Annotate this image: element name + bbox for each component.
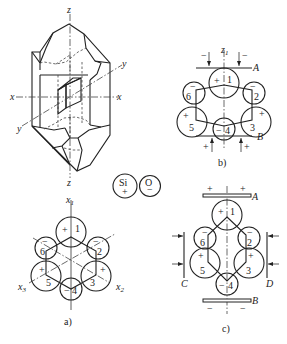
panel-b-atom-6-num: 6 xyxy=(186,91,191,102)
panel-a-atom-4-charge: − xyxy=(64,285,70,296)
panel-a-axis-x1: x1 xyxy=(65,194,74,207)
panel-a-axis-x2: x2 xyxy=(115,281,124,294)
panel-c-top-sign-left: + xyxy=(207,183,213,194)
crystal-axis-y-upper: y xyxy=(121,58,127,69)
panel-a: x1 x2 x3 + 1 − 2 + 3 − 4 + 5 − 6 a) xyxy=(17,194,124,328)
legend-o-charge: − xyxy=(147,184,153,195)
crystal-axis-x-left: x xyxy=(9,91,15,102)
panel-b-atom-3-num: 3 xyxy=(250,122,255,133)
panel-a-atom-5-charge: + xyxy=(39,264,45,275)
panel-c-caption: c) xyxy=(222,323,230,335)
panel-b-atom-5-num: 5 xyxy=(189,122,194,133)
panel-a-axis-x3: x3 xyxy=(17,281,26,294)
panel-c-plate-a: A xyxy=(251,191,259,202)
panel-b-atom-1-num: 1 xyxy=(227,74,232,85)
crystal-axis-z-top: z xyxy=(66,4,71,15)
panel-b: z1 A B − − + + + 1 − 2 + 3 − 4 + 5 − xyxy=(177,44,271,169)
panel-b-top-sign-left: − xyxy=(201,50,207,61)
crystal-axis-z-bottom: z xyxy=(66,177,71,188)
panel-b-atom-1-charge: + xyxy=(214,75,220,86)
panel-c-atom-1-charge: + xyxy=(218,206,224,217)
panel-a-atom-3-num: 3 xyxy=(90,277,95,288)
panel-c-atom-3-charge: + xyxy=(248,250,254,261)
panel-c-plate-b: B xyxy=(252,295,258,306)
panel-a-atom-6-num: 6 xyxy=(40,246,45,257)
panel-b-bottom-sign-left: + xyxy=(203,141,209,152)
legend-si-charge: + xyxy=(122,186,128,197)
panel-c-atom-5-num: 5 xyxy=(200,265,205,276)
panel-b-axis-z1: z1 xyxy=(220,44,228,57)
panel-a-atom-1-charge: + xyxy=(62,224,68,235)
panel-b-atom-2-num: 2 xyxy=(254,91,259,102)
panel-c-atom-5-charge: + xyxy=(198,250,204,261)
crystal-axis-y-lower: y xyxy=(16,123,22,134)
panel-b-atom-3-charge: + xyxy=(259,108,265,119)
panel-c-atom-1-num: 1 xyxy=(230,206,235,217)
panel-c-atom-3-num: 3 xyxy=(246,265,251,276)
panel-c: A B + + − − C D + 1 − 2 + 3 − 4 + 5 xyxy=(172,183,279,335)
quartz-crystal-drawing: z z x x y y xyxy=(9,4,127,188)
panel-c-atom-2-num: 2 xyxy=(247,237,252,248)
panel-a-atom-4-num: 4 xyxy=(72,285,77,296)
panel-b-plate-a: A xyxy=(252,62,260,73)
panel-c-bottom-sign-left: − xyxy=(207,303,213,314)
panel-b-atom-4-num: 4 xyxy=(225,125,230,136)
panel-b-top-sign-right: − xyxy=(242,50,248,61)
panel-c-plate-c: C xyxy=(181,278,188,289)
panel-b-bottom-sign-right: + xyxy=(244,141,250,152)
panel-a-atom-2-num: 2 xyxy=(97,246,102,257)
panel-c-plate-d: D xyxy=(265,278,274,289)
quartz-piezo-diagram: z z x x y y Si + O − x1 x2 x3 + 1 − xyxy=(0,0,287,344)
atom-legend: Si + O − xyxy=(113,174,161,198)
panel-b-atom-5-charge: + xyxy=(183,110,189,121)
panel-c-atom-6-num: 6 xyxy=(200,237,205,248)
panel-a-atom-5-num: 5 xyxy=(46,277,51,288)
panel-c-atom-4-num: 4 xyxy=(228,280,233,291)
panel-b-atom-4-charge: − xyxy=(216,125,222,136)
panel-c-top-sign-right: + xyxy=(240,183,246,194)
panel-c-atom-4-charge: − xyxy=(219,280,225,291)
panel-b-caption: b) xyxy=(218,157,226,169)
panel-a-caption: a) xyxy=(64,316,72,328)
panel-a-atom-1-num: 1 xyxy=(75,223,80,234)
panel-c-bottom-sign-right: − xyxy=(240,303,246,314)
crystal-axis-x-right: x xyxy=(116,91,122,102)
panel-a-atom-3-charge: + xyxy=(100,264,106,275)
